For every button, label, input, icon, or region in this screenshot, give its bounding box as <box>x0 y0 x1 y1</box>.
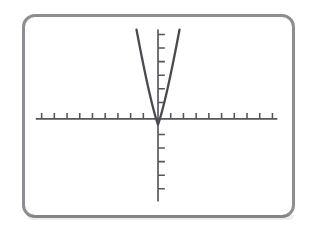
y-axis-ticks-positive <box>158 34 165 102</box>
y-axis-ticks-negative <box>158 134 165 188</box>
coordinate-plane <box>25 17 292 215</box>
graph-plot-area <box>25 17 292 215</box>
calculator-screen-frame <box>22 14 295 218</box>
x-axis-ticks-negative <box>42 113 144 119</box>
x-axis-ticks-positive <box>171 113 273 119</box>
screenshot-root: Graphing calculator parabola display <box>0 0 318 236</box>
